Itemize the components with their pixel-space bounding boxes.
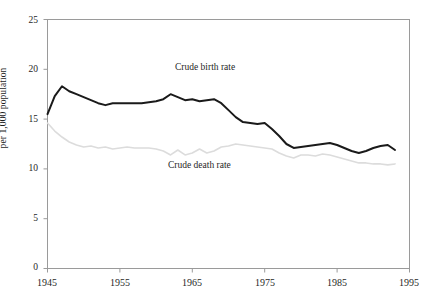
- series-line-crude-death-rate: [48, 123, 396, 165]
- clipped-title-remnant: [55, 0, 355, 2]
- y-tick-label-0: 0: [12, 262, 38, 272]
- annotation-crude-death-rate: Crude death rate: [168, 160, 231, 170]
- annotation-crude-birth-rate: Crude birth rate: [175, 62, 235, 72]
- y-axis-label: per 1,000 population: [0, 48, 8, 168]
- x-tick-label-1965: 1965: [172, 277, 212, 288]
- x-tick-label-1995: 1995: [389, 277, 429, 288]
- x-tick-label-1955: 1955: [100, 277, 140, 288]
- x-tick-label-1975: 1975: [245, 277, 285, 288]
- x-tick-label-1945: 1945: [27, 277, 67, 288]
- y-tick-label-25: 25: [12, 15, 38, 25]
- y-tick-label-10: 10: [12, 163, 38, 173]
- y-tick-label-15: 15: [12, 114, 38, 124]
- y-tick-label-5: 5: [12, 213, 38, 223]
- plot-frame: [48, 20, 410, 269]
- series-line-crude-birth-rate: [48, 86, 396, 153]
- chart-figure: per 1,000 population 25 20 15 10 5 0 194…: [0, 0, 437, 304]
- y-tick-label-20: 20: [12, 64, 38, 74]
- x-tick-label-1985: 1985: [317, 277, 357, 288]
- plot-area: [0, 0, 437, 304]
